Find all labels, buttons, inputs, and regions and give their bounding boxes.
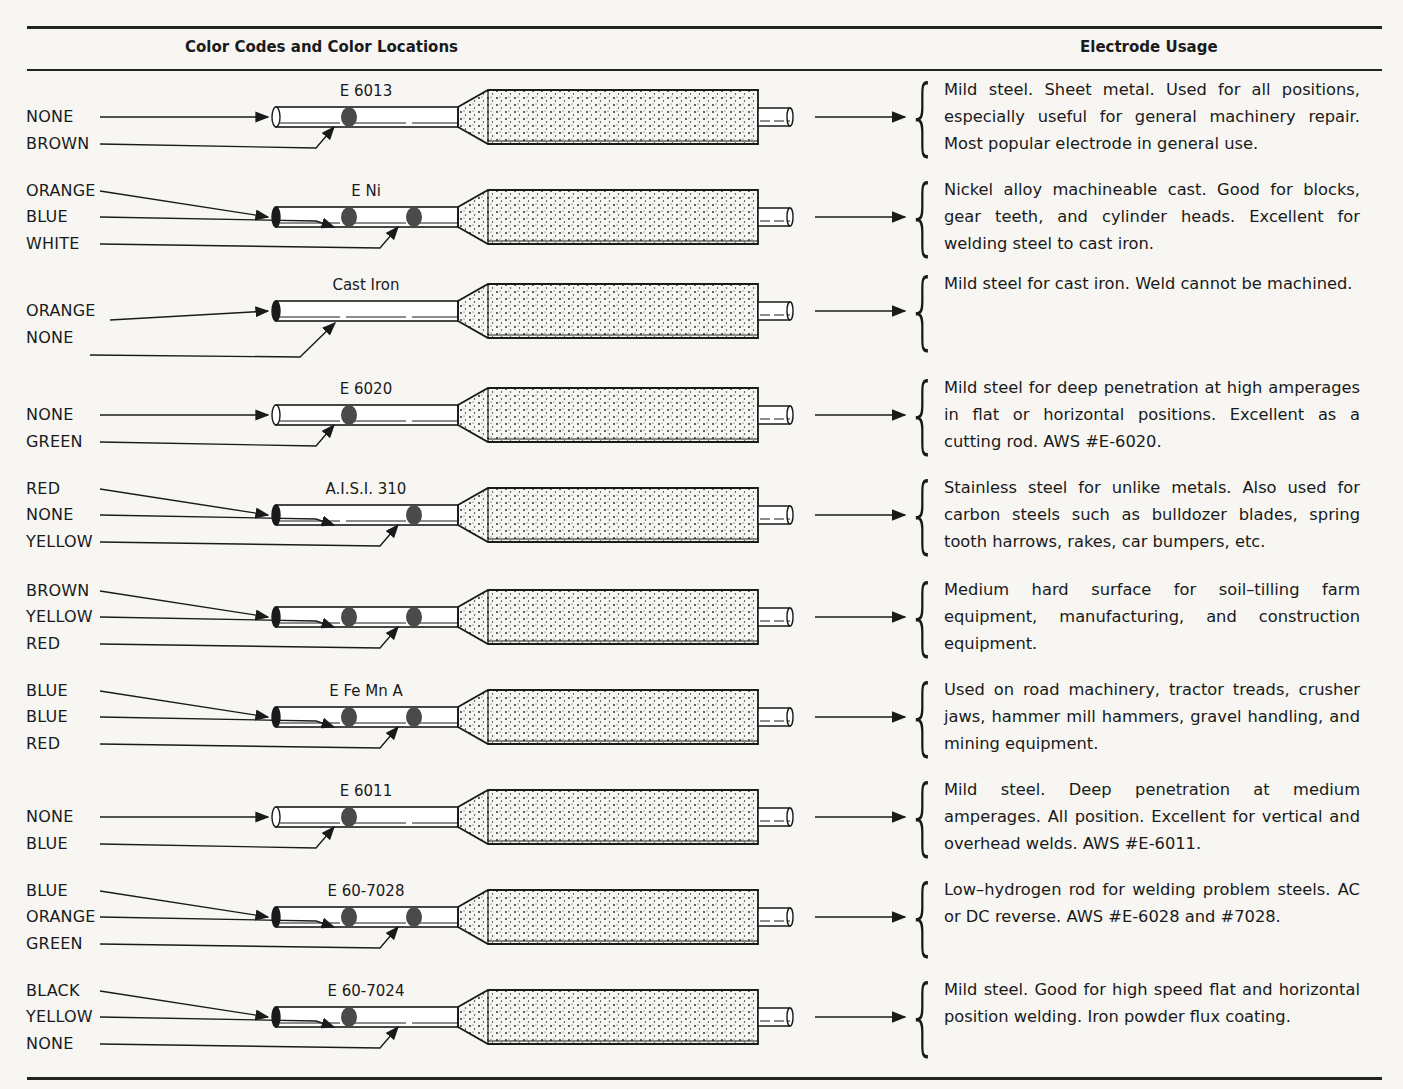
- brace-icon: {: [908, 674, 937, 758]
- electrode-row: REDNONEYELLOWA.I.S.I. 310 {Stainless ste…: [0, 480, 1403, 580]
- electrode-row: BROWNYELLOWRED {Medium hard surface for …: [0, 582, 1403, 682]
- brace-icon: {: [908, 974, 937, 1058]
- electrode-usage-text: Mild steel for deep penetration at high …: [944, 374, 1360, 455]
- electrode-usage-text: Mild steel. Sheet metal. Used for all po…: [944, 76, 1360, 157]
- electrode-usage-text: Low–hydrogen rod for welding problem ste…: [944, 876, 1360, 930]
- brace-icon: {: [908, 472, 937, 556]
- electrode-row: ORANGENONECast Iron {Mild steel for cast…: [0, 276, 1403, 376]
- brace-icon: {: [908, 372, 937, 456]
- electrode-row: NONEBLUEE 6011 {Mild steel. Deep penetra…: [0, 782, 1403, 882]
- electrode-row: BLACKYELLOWNONEE 60-7024 {Mild steel. Go…: [0, 982, 1403, 1082]
- electrode-row: NONEBROWNE 6013 {Mild steel. Sheet metal…: [0, 82, 1403, 182]
- brace-icon: {: [908, 174, 937, 258]
- brace-icon: {: [908, 874, 937, 958]
- electrode-row: ORANGEBLUEWHITEE Ni {Nickel alloy machin…: [0, 182, 1403, 282]
- electrode-usage-text: Used on road machinery, tractor treads, …: [944, 676, 1360, 757]
- header-color-codes: Color Codes and Color Locations: [185, 38, 458, 56]
- brace-icon: {: [908, 574, 937, 658]
- bottom-rule: [27, 1077, 1382, 1080]
- electrode-usage-text: Nickel alloy machineable cast. Good for …: [944, 176, 1360, 257]
- brace-icon: {: [908, 774, 937, 858]
- header-electrode-usage: Electrode Usage: [1080, 38, 1218, 56]
- electrode-usage-text: Medium hard surface for soil–tilling far…: [944, 576, 1360, 657]
- electrode-row: BLUEBLUEREDE Fe Mn A {Used on road machi…: [0, 682, 1403, 782]
- top-rule: [27, 26, 1382, 29]
- header-rule: [27, 69, 1382, 71]
- electrode-usage-text: Mild steel. Deep penetration at medium a…: [944, 776, 1360, 857]
- electrode-row: NONEGREENE 6020 {Mild steel for deep pen…: [0, 380, 1403, 480]
- electrode-usage-text: Mild steel for cast iron. Weld cannot be…: [944, 270, 1360, 297]
- electrode-row: BLUEORANGEGREENE 60-7028 {Low–hydrogen r…: [0, 882, 1403, 982]
- brace-icon: {: [908, 268, 937, 352]
- electrode-usage-text: Stainless steel for unlike metals. Also …: [944, 474, 1360, 555]
- brace-icon: {: [908, 74, 937, 158]
- electrode-usage-text: Mild steel. Good for high speed flat and…: [944, 976, 1360, 1030]
